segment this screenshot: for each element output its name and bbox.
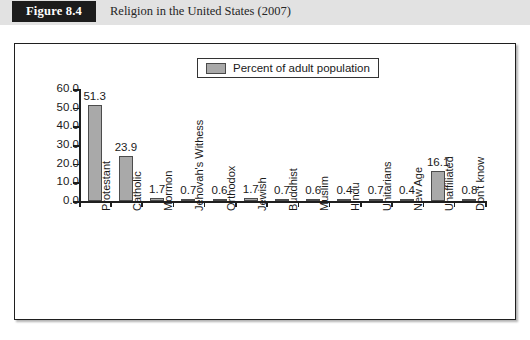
y-tick-label: 20.0 [27,157,79,169]
x-category-label: Mormon [162,171,174,211]
x-category-label: New Age [412,167,424,211]
y-tick-label: 50.0 [27,101,79,113]
x-category-label: Hindu [349,182,361,211]
y-tick-label: 10.0 [27,175,79,187]
figure-number-badge: Figure 8.4 [12,1,96,22]
y-tick-label: 60.0 [27,82,79,94]
x-category-label: Don't know [474,157,486,211]
plot-area: 0.010.020.030.040.050.060.0 51.323.91.70… [15,44,517,321]
y-axis-line [79,89,81,202]
x-category-label: Buddhist [287,168,299,211]
x-category-label: Catholic [131,171,143,211]
x-category-label: Muslim [318,176,330,211]
y-tick-label: 30.0 [27,138,79,150]
y-tick-label: 0.0 [27,194,79,206]
figure-header: Figure 8.4 Religion in the United States… [0,0,530,25]
x-category-label: Unaffiliated [443,156,455,211]
x-category-label: Protestant [100,161,112,211]
x-tick-mark [79,201,81,207]
chart-panel: Percent of adult population 0.010.020.03… [14,43,516,320]
x-category-label: Orthodox [225,166,237,211]
x-category-label: Unitarians [381,161,393,211]
bar-value-label: 51.3 [75,90,115,102]
bar-value-label: 23.9 [106,141,146,153]
y-tick-label: 40.0 [27,119,79,131]
x-category-label: Jehovah's Withess [193,120,205,211]
x-category-label: Jewish [256,177,268,211]
figure-caption: Religion in the United States (2007) [110,4,291,19]
